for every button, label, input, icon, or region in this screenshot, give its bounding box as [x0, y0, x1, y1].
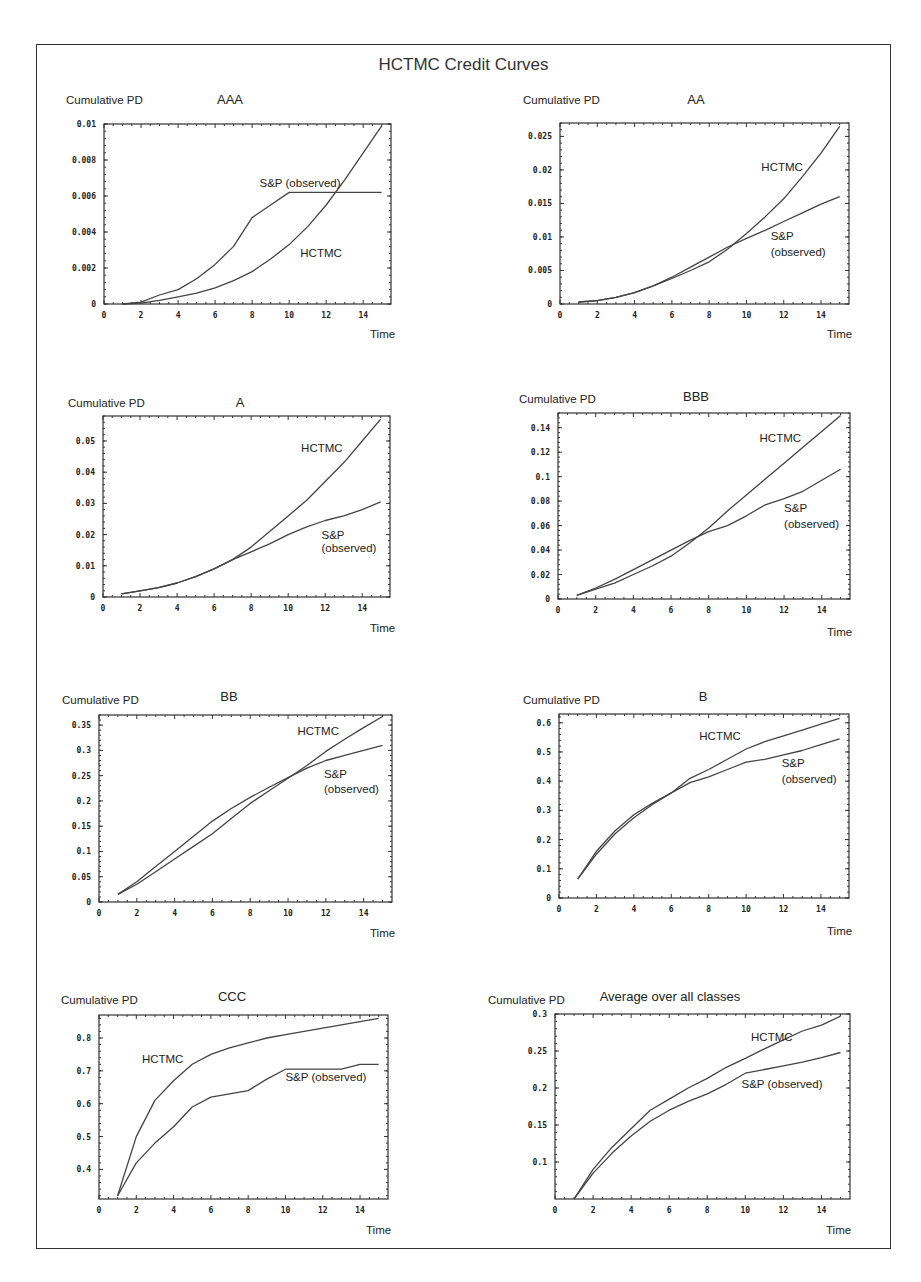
y-tick-label: 0.05 — [72, 873, 91, 882]
x-tick-label: 6 — [669, 606, 674, 615]
y-tick-label: 0 — [90, 593, 95, 602]
series-annotation: (observed) — [784, 518, 839, 530]
y-tick-label: 0.01 — [77, 120, 96, 129]
y-tick-label: 0.3 — [537, 806, 552, 815]
y-tick-label: 0.5 — [77, 1133, 92, 1142]
y-tick-label: 0.05 — [76, 437, 95, 446]
x-axis-label: Time — [827, 626, 852, 638]
series-annotation: S&P (observed) — [260, 177, 341, 189]
x-tick-label: 14 — [817, 606, 827, 615]
x-tick-label: 12 — [320, 604, 330, 613]
plot-frame — [99, 1015, 388, 1199]
y-tick-label: 0.006 — [72, 192, 96, 201]
x-tick-label: 0 — [557, 905, 562, 914]
x-tick-label: 8 — [246, 1206, 251, 1215]
x-axis-label: Time — [827, 925, 852, 937]
series-annotation: S&P (observed) — [742, 1078, 823, 1090]
y-tick-label: 0.7 — [77, 1067, 92, 1076]
y-tick-label: 0.008 — [72, 156, 96, 165]
x-tick-label: 4 — [171, 1206, 176, 1215]
x-tick-label: 2 — [139, 311, 144, 320]
series-line-hctmc — [118, 717, 383, 895]
y-axis-label: Cumulative PD — [66, 94, 143, 106]
series-annotation: S&P — [784, 502, 807, 514]
series-annotation: HCTMC — [142, 1053, 184, 1065]
series-annotation: HCTMC — [760, 432, 802, 444]
x-tick-label: 2 — [593, 606, 598, 615]
x-axis-label: Time — [826, 1224, 851, 1236]
series-annotation: (observed) — [324, 783, 379, 795]
y-tick-label: 0.02 — [531, 571, 550, 580]
x-tick-label: 2 — [134, 909, 139, 918]
x-tick-label: 0 — [97, 909, 102, 918]
y-tick-label: 0.03 — [76, 499, 95, 508]
x-tick-label: 6 — [213, 311, 218, 320]
x-axis-label: Time — [827, 328, 852, 340]
y-tick-label: 0.015 — [528, 199, 552, 208]
y-tick-label: 0.01 — [533, 233, 552, 242]
x-tick-label: 4 — [629, 1206, 634, 1215]
chart-title: BBB — [683, 389, 709, 404]
x-tick-label: 2 — [594, 905, 599, 914]
y-axis-label: Cumulative PD — [523, 94, 600, 106]
chart-title: BB — [220, 689, 237, 704]
chart-panel-aaa: Cumulative PDAAATime0246810121400.0020.0… — [66, 92, 395, 340]
x-tick-label: 12 — [779, 905, 789, 914]
series-annotation: (observed) — [321, 542, 376, 554]
y-axis-label: Cumulative PD — [488, 994, 565, 1006]
x-tick-label: 4 — [631, 905, 636, 914]
series-line-s-p-observed — [118, 1064, 379, 1195]
x-tick-label: 14 — [359, 909, 369, 918]
x-tick-label: 12 — [321, 909, 331, 918]
plot-frame — [104, 124, 391, 304]
y-axis-label: Cumulative PD — [68, 397, 145, 409]
series-annotation: HCTMC — [699, 730, 741, 742]
y-tick-label: 0.2 — [537, 836, 552, 845]
y-tick-label: 0.8 — [77, 1034, 92, 1043]
x-tick-label: 10 — [283, 604, 293, 613]
x-tick-label: 12 — [779, 606, 789, 615]
x-tick-label: 8 — [706, 905, 711, 914]
x-tick-label: 12 — [321, 311, 331, 320]
x-tick-label: 6 — [210, 909, 215, 918]
x-tick-label: 8 — [250, 311, 255, 320]
y-tick-label: 0.1 — [537, 865, 552, 874]
chart-panel-b: Cumulative PDBTime0246810121400.10.20.30… — [523, 689, 852, 937]
y-tick-label: 0 — [545, 595, 550, 604]
chart-title: AAA — [217, 92, 243, 107]
y-tick-label: 0.5 — [537, 748, 552, 757]
y-tick-label: 0.3 — [533, 1010, 548, 1019]
y-axis-label: Cumulative PD — [523, 694, 600, 706]
x-tick-label: 0 — [97, 1206, 102, 1215]
x-tick-label: 10 — [281, 1206, 291, 1215]
y-tick-label: 0.005 — [528, 266, 552, 275]
x-tick-label: 0 — [553, 1206, 558, 1215]
x-tick-label: 6 — [667, 1206, 672, 1215]
x-tick-label: 8 — [248, 909, 253, 918]
y-axis-label: Cumulative PD — [62, 694, 139, 706]
y-tick-label: 0.25 — [72, 772, 91, 781]
y-tick-label: 0.12 — [531, 448, 550, 457]
y-tick-label: 0.08 — [531, 497, 550, 506]
series-annotation: S&P (observed) — [285, 1071, 366, 1083]
x-axis-label: Time — [366, 1224, 391, 1236]
y-tick-label: 0.02 — [76, 531, 95, 540]
series-annotation: S&P — [771, 230, 794, 242]
x-tick-label: 10 — [284, 311, 294, 320]
series-line-hctmc — [123, 126, 382, 304]
x-tick-label: 6 — [212, 604, 217, 613]
chart-panel-bb: Cumulative PDBBTime0246810121400.050.10.… — [62, 689, 395, 939]
series-annotation: HCTMC — [297, 725, 339, 737]
y-tick-label: 0 — [91, 300, 96, 309]
x-tick-label: 14 — [816, 905, 826, 914]
x-tick-label: 0 — [102, 311, 107, 320]
plot-frame — [99, 715, 392, 902]
x-tick-label: 2 — [138, 604, 143, 613]
y-tick-label: 0.4 — [77, 1165, 92, 1174]
y-tick-label: 0.025 — [528, 132, 552, 141]
y-tick-label: 0.6 — [537, 719, 552, 728]
chart-panel-a: Cumulative PDATime0246810121400.010.020.… — [68, 395, 395, 634]
y-tick-label: 0.4 — [537, 777, 552, 786]
x-tick-label: 4 — [175, 604, 180, 613]
x-tick-label: 4 — [632, 311, 637, 320]
